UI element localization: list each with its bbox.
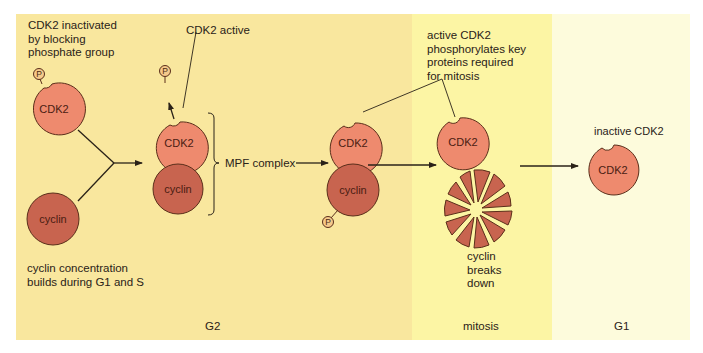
pointer-to-mpf [363, 79, 442, 112]
label-cdk2-inactivated: CDK2 inactivated by blocking phosphate g… [28, 19, 117, 60]
svg-text:P: P [162, 66, 168, 76]
cyclin-fragments [444, 170, 512, 248]
cdk2-active-pointer [183, 32, 196, 108]
label-line: for mitosis [427, 70, 526, 84]
svg-text:CDK2: CDK2 [164, 137, 193, 149]
converge-line-top [78, 130, 114, 163]
phosphorylated-mpf-cyclin: cyclin [327, 164, 379, 216]
label-line: builds during G1 and S [27, 276, 144, 290]
label-line: active CDK2 [427, 29, 526, 43]
label-cdk2-active: CDK2 active [186, 24, 250, 38]
svg-text:cyclin: cyclin [39, 213, 67, 225]
cdk2-inactivated-molecule: P CDK2 [33, 69, 85, 135]
label-line: CDK2 inactivated [28, 19, 117, 33]
cyclin-molecule-left: cyclin [27, 193, 79, 245]
svg-text:CDK2: CDK2 [598, 164, 627, 176]
phase-label-mitosis: mitosis [463, 320, 499, 332]
label-cyclin-concentration: cyclin concentration builds during G1 an… [27, 262, 144, 289]
label-line: cyclin concentration [27, 262, 144, 276]
label-line: down [467, 277, 502, 291]
label-line: breaks [467, 264, 502, 278]
label-line: cyclin [467, 250, 502, 264]
pointer-to-active-cdk2 [442, 79, 455, 117]
active-cdk2-mitosis: CDK2 [437, 118, 489, 170]
svg-text:CDK2: CDK2 [39, 103, 68, 115]
svg-text:P: P [36, 69, 42, 79]
label-active-cdk2-phosphorylates: active CDK2 phosphorylates key proteins … [427, 29, 526, 83]
label-line: proteins required [427, 56, 526, 70]
svg-text:CDK2: CDK2 [448, 136, 477, 148]
mpf-brace [208, 113, 219, 215]
svg-text:cyclin: cyclin [164, 183, 192, 195]
label-line: phosphorylates key [427, 43, 526, 57]
inactive-cdk2-g1: CDK2 [589, 145, 639, 195]
label-line: phosphate group [28, 46, 117, 60]
converge-line-bottom [78, 163, 114, 201]
label-line: by blocking [28, 33, 117, 47]
phosphate-release-arrow [169, 103, 174, 119]
label-cyclin-breaks-down: cyclin breaks down [467, 250, 502, 291]
svg-text:CDK2: CDK2 [338, 137, 367, 149]
phase-label-g1: G1 [614, 320, 629, 332]
svg-text:P: P [325, 217, 331, 227]
label-mpf-complex: MPF complex [225, 157, 295, 171]
phase-label-g2: G2 [205, 320, 220, 332]
svg-text:cyclin: cyclin [339, 184, 367, 196]
label-inactive-cdk2: inactive CDK2 [594, 125, 664, 139]
mpf-complex-cyclin: cyclin [153, 164, 203, 214]
